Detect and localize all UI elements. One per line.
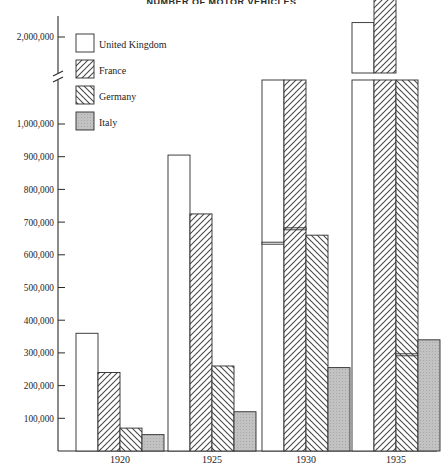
legend-group: United KingdomFranceGermanyItaly [76, 34, 167, 130]
chart-svg: 100,000200,000300,000400,000500,000600,0… [0, 0, 443, 468]
white-swatch-icon [76, 34, 94, 52]
y-tick-label: 1,000,000 [17, 119, 55, 129]
y-tick-label: 100,000 [24, 414, 55, 424]
bar-1930-france [284, 80, 306, 451]
x-tick-label: 1920 [110, 454, 130, 465]
bar-1930-germany [306, 235, 328, 451]
bar-1935-italy [418, 340, 440, 451]
y-tick-label: 600,000 [24, 250, 55, 260]
y-tick-label: 2,000,000 [17, 32, 55, 42]
bar-1935-united-kingdom [352, 23, 374, 451]
y-tick-label: 200,000 [24, 381, 55, 391]
y-tick-label: 300,000 [24, 348, 55, 358]
bar-1925-france [190, 214, 212, 451]
gray-swatch-icon [76, 112, 94, 130]
bar-1920-france [98, 373, 120, 451]
y-tick-label: 700,000 [24, 218, 55, 228]
bar-1925-united-kingdom [168, 155, 190, 451]
x-tick-label: 1925 [202, 454, 222, 465]
x-tick-label: 1930 [296, 454, 316, 465]
back-hatch-swatch-icon [76, 86, 94, 104]
bar-1930-italy [328, 368, 350, 451]
bar-1925-germany [212, 366, 234, 451]
legend-label: United Kingdom [99, 39, 167, 50]
bar-1925-italy [234, 412, 256, 451]
bar-1920-united-kingdom [76, 333, 98, 451]
legend-label: Italy [99, 117, 117, 128]
legend-label: France [99, 65, 127, 76]
bar-1920-italy [142, 435, 164, 451]
legend-label: Germany [99, 91, 136, 102]
bar-1935-france [374, 0, 396, 451]
x-tick-label: 1935 [386, 454, 406, 465]
forward-hatch-swatch-icon [76, 60, 94, 78]
bar-1920-germany [120, 428, 142, 451]
y-tick-label: 800,000 [24, 185, 55, 195]
bar-1930-united-kingdom [262, 80, 284, 451]
chart-root: NUMBER OF MOTOR VEHICLES [0, 0, 443, 468]
bar-group [76, 0, 440, 451]
y-tick-label: 500,000 [24, 283, 55, 293]
x-tick-group: 1920192519301935 [110, 451, 406, 465]
y-tick-label: 900,000 [24, 152, 55, 162]
bar-1935-germany [396, 80, 418, 451]
y-tick-label: 400,000 [24, 316, 55, 326]
